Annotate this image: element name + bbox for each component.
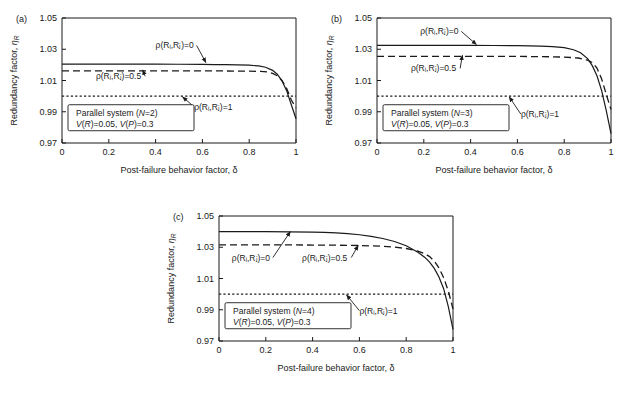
x-axis-title: Post-failure behavior factor, δ (277, 363, 394, 373)
y-tick-label: 0.97 (39, 138, 57, 148)
annotation-leader (197, 45, 206, 62)
panel-tag: (c) (173, 212, 184, 222)
annotation-leader (351, 245, 358, 257)
chart-panel-a: 00.20.40.60.810.970.991.011.031.05(a)Red… (0, 0, 314, 198)
annotation-leader (460, 55, 462, 68)
y-tick-label: 1.05 (196, 211, 214, 221)
curve-annotation-label: ρ(Rᵢ,Rⱼ)=0 (156, 40, 194, 50)
annotation-leader (509, 97, 521, 114)
x-tick-label: 0 (59, 147, 64, 157)
x-tick-label: 0.8 (558, 147, 571, 157)
x-tick-label: 1 (608, 147, 613, 157)
y-tick-label: 1.03 (354, 44, 372, 54)
curve-annotation-label: ρ(Rᵢ,Rⱼ)=0 (232, 253, 270, 263)
legend-line-variability: V(R)=0.05, V(P)=0.3 (76, 119, 154, 129)
x-axis-title: Post-failure behavior factor, δ (435, 165, 552, 175)
x-tick-label: 1 (293, 147, 298, 157)
x-tick-label: 1 (450, 345, 455, 355)
curve-annotation-label: ρ(Rᵢ,Rⱼ)=0 (420, 26, 458, 36)
curve-annotation-label: ρ(Rᵢ,Rⱼ)=1 (521, 109, 559, 119)
curve-annotation-label: ρ(Rᵢ,Rⱼ)=1 (194, 102, 232, 112)
curve-annotation-label: ρ(Rᵢ,Rⱼ)=0.5 (411, 63, 457, 73)
legend-line-system: Parallel system (N=3) (391, 108, 473, 118)
x-tick-label: 0 (374, 147, 379, 157)
annotation-leader (461, 31, 476, 44)
x-tick-label: 0.8 (243, 147, 256, 157)
x-tick-label: 0.6 (353, 345, 366, 355)
figure-canvas: 00.20.40.60.810.970.991.011.031.05(a)Red… (0, 0, 629, 399)
x-tick-label: 0.4 (149, 147, 162, 157)
x-tick-label: 0.8 (400, 345, 413, 355)
x-tick-label: 0.2 (260, 345, 273, 355)
x-tick-label: 0.6 (511, 147, 524, 157)
x-tick-label: 0.4 (464, 147, 477, 157)
y-tick-label: 0.99 (196, 305, 214, 315)
y-tick-label: 1.03 (196, 242, 214, 252)
y-tick-label: 0.99 (354, 107, 372, 117)
curve-annotation-label: ρ(Rᵢ,Rⱼ)=0.5 (302, 253, 348, 263)
y-tick-label: 1.01 (196, 274, 214, 284)
y-tick-label: 0.99 (39, 107, 57, 117)
y-tick-label: 1.05 (354, 13, 372, 23)
chart-panel-b: 00.20.40.60.810.970.991.011.031.05(b)Red… (315, 0, 629, 198)
curve-annotation-label: ρ(Rᵢ,Rⱼ)=1 (359, 306, 397, 316)
y-axis-title: Redundancy factor, ηR (9, 35, 20, 125)
y-tick-label: 0.97 (354, 138, 372, 148)
x-axis-title: Post-failure behavior factor, δ (120, 165, 237, 175)
chart-panel-c: 00.20.40.60.810.970.991.011.031.05(c)Red… (157, 198, 471, 399)
x-tick-label: 0.6 (196, 147, 209, 157)
x-tick-label: 0 (216, 345, 221, 355)
legend-line-system: Parallel system (N=2) (76, 108, 158, 118)
legend-line-system: Parallel system (N=4) (233, 306, 315, 316)
curve-annotation-label: ρ(Rᵢ,Rⱼ)=0.5 (96, 71, 142, 81)
panel-tag: (a) (16, 14, 27, 24)
y-tick-label: 1.05 (39, 13, 57, 23)
y-tick-label: 1.01 (39, 76, 57, 86)
y-axis-title: Redundancy factor, ηR (324, 35, 335, 125)
legend-line-variability: V(R)=0.05, V(P)=0.3 (391, 119, 469, 129)
y-axis-title: Redundancy factor, ηR (166, 233, 177, 323)
x-tick-label: 0.2 (418, 147, 431, 157)
x-tick-label: 0.2 (103, 147, 116, 157)
y-tick-label: 1.03 (39, 44, 57, 54)
y-tick-label: 1.01 (354, 76, 372, 86)
y-tick-label: 0.97 (196, 336, 214, 346)
x-tick-label: 0.4 (306, 345, 319, 355)
legend-line-variability: V(R)=0.05, V(P)=0.3 (233, 317, 311, 327)
panel-tag: (b) (331, 14, 342, 24)
